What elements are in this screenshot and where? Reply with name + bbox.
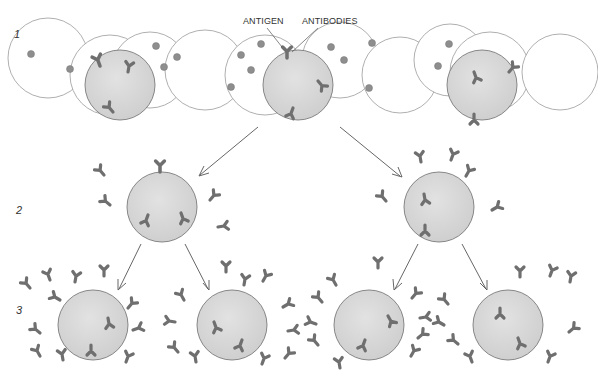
antigen-label: ANTIGEN bbox=[243, 16, 284, 26]
stage-1-label: 1 bbox=[14, 28, 20, 40]
stage-2-label: 2 bbox=[16, 204, 22, 216]
row2-cells bbox=[127, 172, 474, 242]
stage-3-label: 3 bbox=[16, 304, 22, 316]
diagram-canvas bbox=[0, 0, 598, 387]
clonal-selection-diagram: 1 2 3 ANTIGEN ANTIBODIES bbox=[0, 0, 598, 387]
antibodies-label: ANTIBODIES bbox=[302, 16, 358, 26]
